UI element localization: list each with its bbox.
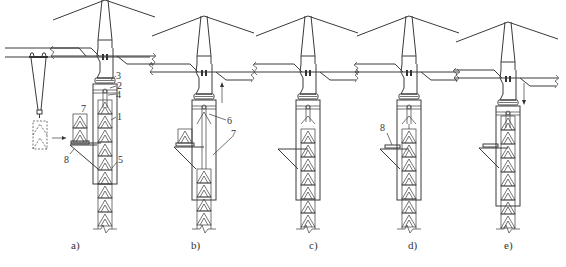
panel-d: 8 d): [354, 16, 460, 252]
tower-crane-climbing-diagram: 3 2 4 1 5 7 8 a): [0, 0, 566, 267]
panel-e: e): [453, 22, 559, 252]
caption-a: a): [71, 239, 80, 252]
panel-b: 6 7 b): [149, 16, 255, 252]
callout-8d: 8: [380, 122, 385, 133]
callout-8: 8: [64, 154, 69, 165]
callout-4: 4: [116, 89, 121, 100]
callout-1: 1: [117, 111, 122, 122]
callout-7: 7: [81, 103, 86, 114]
caption-c: c): [309, 239, 318, 252]
panel-a: 3 2 4 1 5 7 8 a): [5, 0, 156, 252]
caption-d: d): [408, 239, 418, 252]
caption-b: b): [191, 239, 201, 252]
callout-5: 5: [118, 154, 123, 165]
panel-c: c): [253, 16, 359, 252]
caption-e: e): [504, 239, 513, 252]
callout-7b: 7: [231, 128, 236, 139]
callout-6: 6: [227, 115, 232, 126]
